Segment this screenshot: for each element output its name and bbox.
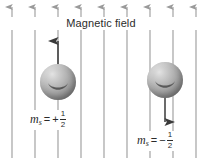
spin-up-fraction: 12 [60, 110, 66, 129]
spin-up-symbol: m [30, 112, 39, 126]
spin-down-equals: = [151, 134, 157, 146]
spin-up-subscript: s [39, 118, 42, 127]
spin-down-symbol: m [137, 133, 146, 147]
spin-up-equals: = [44, 113, 50, 125]
spin-down-subscript: s [146, 139, 149, 148]
spin-up-particle [40, 64, 76, 100]
spin-up-numerator: 1 [60, 110, 66, 118]
spin-down-particle [147, 62, 183, 98]
sphere-crescent-icon [47, 81, 69, 94]
spin-down-denominator: 2 [167, 142, 173, 150]
spin-down-fraction: 12 [167, 131, 173, 150]
spin-down-label: ms=−12 [136, 131, 174, 151]
spin-up-label: ms=+12 [29, 110, 67, 130]
sphere-crescent-icon [154, 79, 176, 92]
diagram-title: Magnetic field [0, 17, 202, 30]
spin-down-numerator: 1 [167, 131, 173, 139]
spin-up-sign: + [52, 113, 58, 125]
spin-up-denominator: 2 [60, 121, 66, 129]
magnetic-field-diagram: Magnetic field ms=+12 ms=−12 [0, 0, 202, 162]
spin-down-sign: − [159, 134, 165, 146]
